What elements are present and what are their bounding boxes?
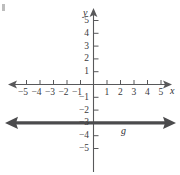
function-label-g: g [121,126,126,136]
x-tick-label-4: 4 [145,88,150,98]
x-tick-label--5: −5 [18,88,28,98]
y-tick-label--4: −4 [70,131,89,141]
y-tick-label-4: 4 [74,29,89,39]
y-tick-label-1: 1 [74,67,89,77]
coordinate-plane-figure: y x g −5 −4 −3 −2 −1 1 2 3 4 5 5 4 3 2 1… [0,0,180,175]
x-tick-label-2: 2 [118,88,123,98]
x-tick-label-5: 5 [159,88,164,98]
y-tick-label--5: −5 [70,144,89,154]
x-tick-label--4: −4 [32,88,42,98]
x-tick-label--3: −3 [45,88,55,98]
y-tick-label--3: −3 [70,118,89,128]
y-tick-label-5: 5 [74,16,89,26]
y-tick-label--1: −1 [70,93,89,103]
x-axis-label: x [170,86,174,96]
y-tick-label--2: −2 [70,106,89,116]
y-tick-label-2: 2 [74,54,89,64]
x-tick-label-3: 3 [132,88,137,98]
x-tick-label--2: −2 [59,88,69,98]
y-tick-label-3: 3 [74,42,89,52]
x-tick-label-1: 1 [105,88,110,98]
